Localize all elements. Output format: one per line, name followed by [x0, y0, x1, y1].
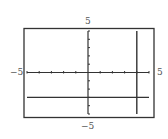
x-min-label: −5: [10, 68, 23, 77]
y-min-label: −5: [81, 122, 94, 131]
x-max-label: 5: [157, 68, 163, 77]
graph-window: [0, 0, 168, 139]
y-max-label: 5: [85, 17, 91, 26]
axes: [27, 31, 149, 114]
